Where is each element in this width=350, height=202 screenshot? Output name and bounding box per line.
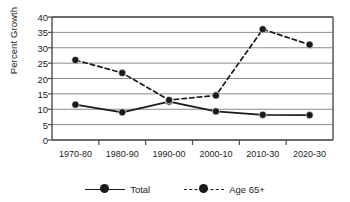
plot-area [0, 0, 350, 202]
x-tick-label: 2020-30 [293, 149, 326, 159]
data-point[interactable] [259, 111, 266, 118]
data-point[interactable] [212, 92, 219, 99]
legend-swatch-dashed-line [184, 184, 224, 194]
legend-label-age65plus: Age 65+ [229, 184, 265, 195]
y-axis-tick-labels: 0510152025303540 [22, 0, 48, 202]
y-tick-label: 30 [37, 42, 48, 53]
data-point[interactable] [306, 41, 313, 48]
data-point[interactable] [212, 108, 219, 115]
x-tick-label: 2010-30 [246, 149, 279, 159]
y-tick-label: 25 [37, 58, 48, 69]
y-tick-label: 20 [37, 73, 48, 84]
legend-item-total[interactable]: Total [85, 184, 150, 195]
series-line-age-65 [75, 29, 309, 100]
y-axis-title: Percent Growth [8, 0, 19, 101]
y-tick-label: 5 [43, 119, 48, 130]
y-tick-label: 15 [37, 88, 48, 99]
data-point[interactable] [119, 69, 126, 76]
legend-swatch-solid-line [85, 184, 125, 194]
data-point[interactable] [72, 101, 79, 108]
chart-legend: Total Age 65+ [0, 178, 350, 200]
data-point[interactable] [259, 26, 266, 33]
line-chart: Percent Growth 0510152025303540 1970-801… [0, 0, 350, 202]
x-tick-label: 1990-00 [153, 149, 186, 159]
data-point[interactable] [165, 96, 172, 103]
series-line-total [75, 102, 309, 116]
legend-label-total: Total [130, 184, 150, 195]
data-point[interactable] [119, 109, 126, 116]
legend-item-age65plus[interactable]: Age 65+ [184, 184, 265, 195]
y-tick-label: 40 [37, 12, 48, 23]
y-tick-label: 0 [43, 135, 48, 146]
x-tick-label: 1970-80 [59, 149, 92, 159]
data-point[interactable] [306, 111, 313, 118]
x-tick-label: 1980-90 [106, 149, 139, 159]
y-tick-label: 35 [37, 27, 48, 38]
x-tick-label: 2000-10 [199, 149, 232, 159]
y-tick-label: 10 [37, 104, 48, 115]
data-point[interactable] [72, 56, 79, 63]
